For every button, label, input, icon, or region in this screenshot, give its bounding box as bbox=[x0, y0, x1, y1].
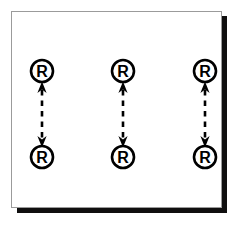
node-label: R bbox=[117, 149, 129, 166]
diagram-svg: R R R R R R bbox=[0, 0, 243, 231]
node-label: R bbox=[199, 149, 211, 166]
connector-center bbox=[118, 82, 127, 148]
node-r-top-center: R bbox=[112, 60, 134, 82]
node-label: R bbox=[36, 63, 48, 80]
node-label: R bbox=[199, 63, 211, 80]
node-r-bottom-right: R bbox=[194, 146, 216, 168]
diagram-canvas: R R R R R R bbox=[0, 0, 243, 231]
node-label: R bbox=[117, 63, 129, 80]
node-label: R bbox=[36, 149, 48, 166]
node-r-top-right: R bbox=[194, 60, 216, 82]
figure-root: R R R R R R bbox=[0, 0, 243, 231]
connector-left bbox=[37, 82, 46, 148]
node-r-bottom-center: R bbox=[112, 146, 134, 168]
connector-right bbox=[200, 82, 209, 148]
node-r-top-left: R bbox=[31, 60, 53, 82]
node-r-bottom-left: R bbox=[31, 146, 53, 168]
